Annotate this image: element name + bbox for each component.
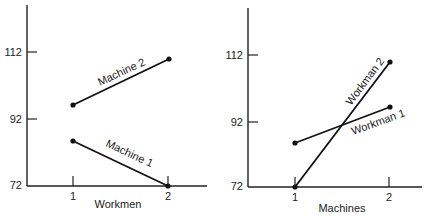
left-xtick-label-1: 1 xyxy=(70,190,76,202)
right-xtick-label-1: 1 xyxy=(292,191,298,203)
left-ytick-label-92: 92 xyxy=(10,113,22,125)
right-ytick-label-92: 92 xyxy=(231,116,243,128)
left-ytick-label-72: 72 xyxy=(10,179,22,191)
right-chart: 112 92 72 1 2 Machines Workman 2 Workman… xyxy=(225,8,422,214)
right-xtick-label-2: 2 xyxy=(386,191,392,203)
machine-1-point-1 xyxy=(70,138,75,143)
right-ytick-label-112: 112 xyxy=(225,49,243,61)
machine-2-point-2 xyxy=(166,56,171,61)
machine-2-label: Machine 2 xyxy=(96,55,147,87)
left-x-axis-label: Workmen xyxy=(95,198,142,210)
machine-1-point-2 xyxy=(165,183,170,188)
left-xtick-label-2: 2 xyxy=(165,190,171,202)
workman-1-point-2 xyxy=(387,104,392,109)
right-x-axis-label: Machines xyxy=(318,202,366,214)
machine-1-label: Machine 1 xyxy=(104,137,155,169)
workman-2-label: Workman 2 xyxy=(343,55,386,107)
machine-2-point-1 xyxy=(70,102,75,107)
left-chart: 112 92 72 1 2 Workmen Machine 2 Machine … xyxy=(4,5,207,210)
left-ytick-label-112: 112 xyxy=(4,46,22,58)
workman-2-point-1 xyxy=(292,184,297,189)
workman-2-point-2 xyxy=(387,59,392,64)
interaction-plots: 112 92 72 1 2 Workmen Machine 2 Machine … xyxy=(0,0,426,216)
right-ytick-label-72: 72 xyxy=(231,180,243,192)
workman-1-point-1 xyxy=(292,140,297,145)
